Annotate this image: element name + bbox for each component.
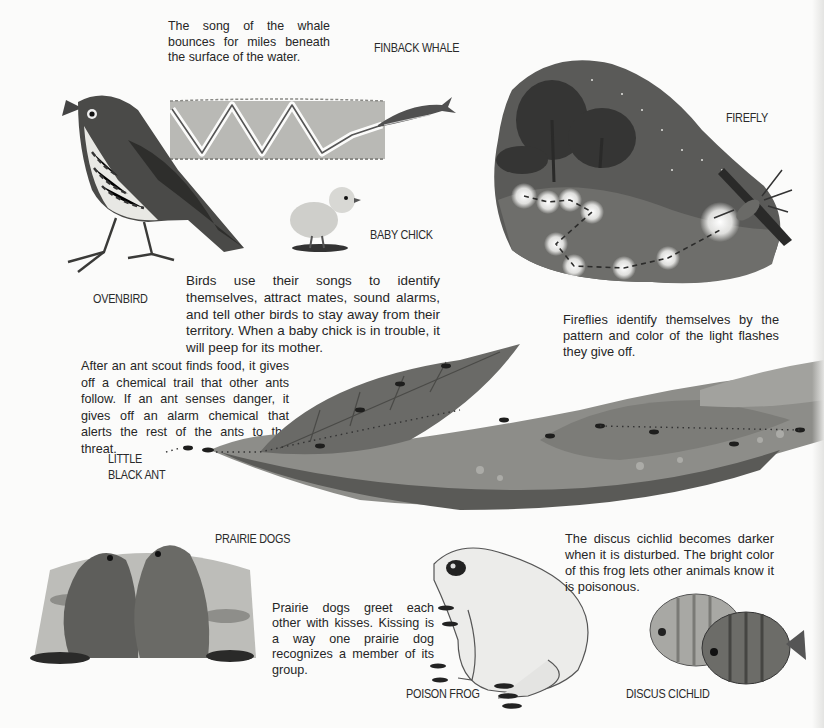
prairie-dogs-illustration bbox=[30, 530, 260, 670]
page-edge-shadow bbox=[812, 0, 824, 728]
discus-cichlid-label: DISCUS CICHLID bbox=[626, 686, 710, 702]
finback-whale-label: FINBACK WHALE bbox=[374, 40, 459, 56]
ovenbird-illustration bbox=[48, 90, 248, 280]
poison-frog-label: POISON FROG bbox=[406, 686, 480, 702]
whale-caption: The song of the whale bounces for miles … bbox=[168, 19, 330, 66]
discus-cichlid-illustration bbox=[648, 590, 808, 690]
leaf-litter-ant-trail-illustration bbox=[160, 340, 824, 515]
baby-chick-illustration bbox=[282, 182, 362, 254]
finback-whale-icon bbox=[378, 97, 456, 127]
firefly-label: FIREFLY bbox=[726, 110, 768, 126]
baby-chick-label: BABY CHICK bbox=[370, 227, 433, 243]
ovenbird-label: OVENBIRD bbox=[93, 291, 148, 307]
discus-frog-caption: The discus cichlid becomes darker when i… bbox=[565, 531, 774, 595]
prairie-dogs-label: PRAIRIE DOGS bbox=[215, 531, 290, 547]
little-black-ant-label: LITTLE BLACK ANT bbox=[108, 451, 165, 483]
prairie-dogs-caption: Prairie dogs greet each other with kisse… bbox=[272, 601, 434, 678]
firefly-night-scene bbox=[492, 50, 802, 290]
